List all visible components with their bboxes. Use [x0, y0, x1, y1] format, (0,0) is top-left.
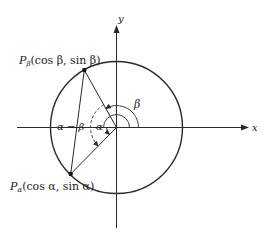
p-beta-coords: (cos β, sin β): [30, 54, 100, 67]
p-alpha-label: Pα(cos α, sin α): [9, 180, 94, 194]
point-p-alpha: [69, 172, 73, 176]
alpha-angle-label: α: [96, 121, 103, 132]
unit-circle-diagram: y x Pβ(cos β, sin β) Pα(cos α, sin α) β …: [0, 0, 269, 239]
y-axis-label: y: [117, 13, 124, 24]
point-p-beta: [82, 68, 86, 72]
p-alpha-coords: (cos α, sin α): [22, 180, 94, 193]
alpha-minus-beta-label: α − β: [57, 121, 84, 132]
beta-angle-label: β: [133, 98, 140, 111]
radius-p-alpha: [71, 128, 117, 175]
x-axis-label: x: [252, 122, 258, 133]
p-beta-label: Pβ(cos β, sin β): [18, 54, 100, 68]
alpha-small-arc: [107, 128, 110, 135]
radius-p-beta: [84, 70, 116, 128]
